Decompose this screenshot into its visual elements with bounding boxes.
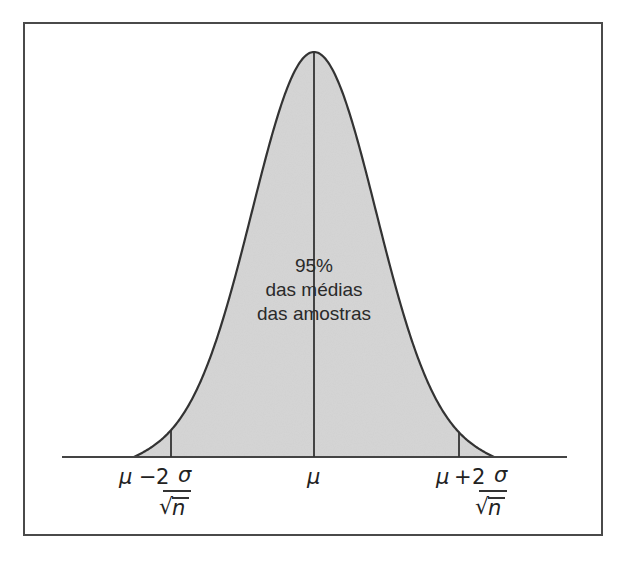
n-symbol: n — [172, 496, 185, 520]
sigma-symbol: σ — [178, 463, 191, 487]
normal-distribution-figure: 95% das médias das amostras μ − 2 σ √ n … — [0, 0, 628, 564]
fraction-bar — [479, 490, 507, 492]
sqrt-symbol: √ — [475, 494, 489, 519]
n-symbol: n — [488, 496, 501, 520]
mu-symbol: μ — [436, 465, 449, 489]
fraction-bar — [163, 490, 191, 492]
minus-sign: − — [139, 465, 157, 489]
mu-symbol: μ — [119, 465, 132, 489]
annotation-line-1: das médias — [214, 278, 414, 302]
sqrt-symbol: √ — [159, 494, 173, 519]
two-label: 2 — [472, 465, 485, 489]
center-annotation: 95% das médias das amostras — [214, 254, 414, 326]
two-label: 2 — [156, 465, 169, 489]
plus-sign: + — [454, 465, 472, 489]
sigma-symbol: σ — [494, 463, 507, 487]
percent-label: 95% — [214, 254, 414, 278]
mu-symbol: μ — [307, 465, 320, 489]
annotation-line-2: das amostras — [214, 302, 414, 326]
